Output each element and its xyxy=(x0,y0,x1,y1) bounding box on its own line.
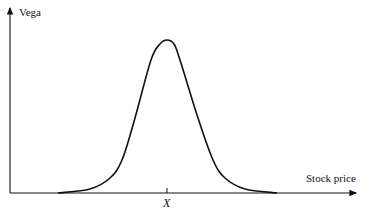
vega-curve xyxy=(58,40,277,193)
y-axis-label: Vega xyxy=(19,6,41,18)
x-axis-label: Stock price xyxy=(306,172,356,184)
strike-tick-label: X xyxy=(163,196,170,211)
